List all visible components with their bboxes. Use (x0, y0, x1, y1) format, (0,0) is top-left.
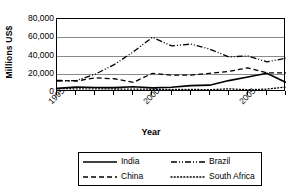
x-tick-mark (190, 91, 191, 95)
legend-label: China (121, 172, 143, 181)
x-tick-mark (171, 91, 172, 95)
x-tick-mark (285, 91, 286, 95)
series-lines (57, 19, 284, 90)
y-tick-label: 80,000 (28, 13, 54, 23)
x-tick-mark (75, 91, 76, 95)
chart-figure: Millions US$ 020,00040,00060,00080,000 1… (0, 0, 302, 190)
y-tick-label: 40,000 (28, 50, 54, 60)
series-line-china (57, 68, 286, 83)
series-svg (57, 19, 286, 92)
legend-item-south-africa[interactable]: South Africa (170, 172, 258, 181)
y-axis-title-text: Millions US$ (4, 26, 14, 79)
legend-swatch-dashed (82, 173, 118, 181)
y-axis-title: Millions US$ (2, 12, 16, 92)
legend-label: South Africa (209, 172, 255, 181)
x-axis-title: Year (0, 127, 302, 137)
y-tick-label: 60,000 (28, 31, 54, 41)
legend-swatch-solid (82, 158, 118, 166)
series-line-brazil (57, 37, 286, 81)
x-tick-mark (209, 91, 210, 95)
x-tick-mark (228, 91, 229, 95)
legend-item-india[interactable]: India (82, 157, 170, 166)
legend-item-china[interactable]: China (82, 172, 170, 181)
legend-label: Brazil (209, 157, 230, 166)
legend-swatch-dotted (170, 173, 206, 181)
x-tick-mark (266, 91, 267, 95)
y-tick-label: 20,000 (28, 68, 54, 78)
x-tick-mark (113, 91, 114, 95)
plot-area (56, 18, 285, 91)
legend-swatch-dash-dot-dot (170, 158, 206, 166)
legend-item-brazil[interactable]: Brazil (170, 157, 258, 166)
legend-label: India (121, 157, 139, 166)
x-tick-mark (94, 91, 95, 95)
chart-legend: IndiaBrazilChinaSouth Africa (78, 152, 262, 186)
x-tick-mark (132, 91, 133, 95)
